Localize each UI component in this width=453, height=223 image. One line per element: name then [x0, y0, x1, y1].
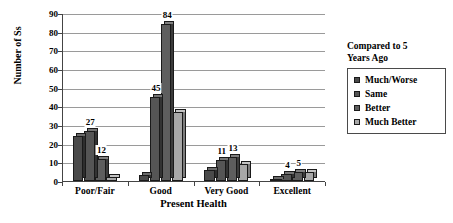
x-axis-tick-labels: Poor/FairGoodVery GoodExcellent [62, 185, 325, 199]
legend-item[interactable]: Better [351, 101, 441, 115]
legend-item[interactable]: Much Better [351, 115, 441, 129]
y-axis-tick-label: 80 [49, 28, 58, 38]
legend-swatch-icon [354, 105, 360, 111]
bar[interactable] [204, 170, 215, 181]
y-axis-tick-label: 50 [49, 84, 58, 94]
x-axis-tick-label: Poor/Fair [75, 186, 115, 196]
y-axis-tick-label: 70 [49, 46, 58, 56]
bar[interactable] [73, 136, 84, 181]
y-axis-tick-label: 90 [49, 9, 58, 19]
y-axis-tick-label: 30 [49, 121, 58, 131]
bar-face [270, 179, 281, 181]
x-axis-tick [325, 182, 326, 186]
bar-value-label: 12 [96, 145, 107, 155]
bar-face [139, 175, 150, 181]
x-axis-tick [62, 182, 63, 186]
bar-side-face [106, 156, 109, 178]
bar-value-label: 45 [151, 83, 162, 93]
x-axis-tick-label: Very Good [205, 186, 249, 196]
legend-item-label: Same [365, 89, 387, 99]
plot-area: 27124584111345 [62, 14, 325, 182]
bar-face [150, 97, 161, 181]
bar[interactable] [139, 175, 150, 181]
bar-value-label: 27 [85, 117, 96, 127]
bar-group: 4584 [129, 14, 195, 181]
y-axis-tick-label: 20 [49, 140, 58, 150]
legend: Compared to 5Years Ago Much/WorseSameBet… [347, 41, 446, 134]
bar[interactable] [150, 97, 161, 181]
bar-side-face [237, 154, 240, 178]
x-axis-tick [259, 182, 260, 186]
bar[interactable] [270, 179, 281, 181]
bar-group: 2712 [63, 14, 129, 181]
y-axis-tick-label: 60 [49, 65, 58, 75]
bar-side-face [171, 21, 174, 178]
bar-value-label: 84 [162, 10, 173, 20]
bar-group: 45 [260, 14, 326, 181]
legend-item[interactable]: Same [351, 87, 441, 101]
legend-swatch-icon [354, 119, 360, 125]
legend-box: Much/WorseSameBetterMuch Better [347, 68, 446, 134]
legend-item-label: Better [365, 103, 390, 113]
y-axis-tick-labels: 0102030405060708090 [0, 14, 58, 182]
plot-inner: 27124584111345 [63, 14, 325, 181]
legend-title-line: Years Ago [347, 53, 446, 65]
legend-swatch-icon [354, 91, 360, 97]
legend-swatch-icon [354, 77, 360, 83]
x-axis-tick [194, 182, 195, 186]
bar-group: 1113 [195, 14, 261, 181]
bar-value-label: 5 [295, 158, 302, 168]
legend-item-label: Much Better [365, 117, 416, 127]
bar-value-label: 11 [217, 146, 228, 156]
bar-side-face [83, 133, 86, 178]
bar-side-face [160, 94, 163, 178]
y-axis-tick-label: 40 [49, 102, 58, 112]
x-axis-tick-label: Good [150, 186, 172, 196]
legend-item-label: Much/Worse [365, 75, 417, 85]
bar-face [204, 170, 215, 181]
bar-value-label: 13 [227, 143, 238, 153]
bar-face [73, 136, 84, 181]
bar-side-face [183, 109, 186, 178]
bar-value-label: 4 [284, 160, 291, 170]
x-axis-tick [128, 182, 129, 186]
legend-item[interactable]: Much/Worse [351, 73, 441, 87]
legend-title-line: Compared to 5 [347, 41, 446, 53]
y-axis-tick-label: 10 [49, 158, 58, 168]
bar-side-face [226, 157, 229, 178]
x-axis-title: Present Health [62, 198, 325, 209]
legend-title: Compared to 5Years Ago [347, 41, 446, 64]
x-axis-tick-label: Excellent [273, 186, 310, 196]
bar-chart-figure: Number of Ss 0102030405060708090 2712458… [0, 0, 453, 223]
